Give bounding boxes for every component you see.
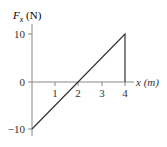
ytick-label: −10 [8, 123, 26, 135]
xtick-label: 2 [75, 87, 81, 99]
xtick-label: 3 [99, 87, 105, 99]
ytick-label: 10 [14, 28, 26, 40]
xlabel: x (m) [135, 76, 159, 89]
ylabel: Fx (N) [12, 9, 42, 24]
force-position-chart: Fx (N) 10 0 −10 1 2 3 4 x (m) [0, 0, 167, 147]
ytick-label: 0 [20, 76, 26, 88]
xtick-label: 1 [52, 87, 58, 99]
xtick-label: 4 [122, 87, 128, 99]
